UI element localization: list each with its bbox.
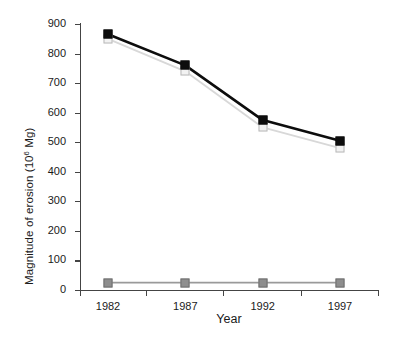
x-axis-tick xyxy=(146,290,147,296)
data-point-marker xyxy=(104,278,113,287)
y-axis-tick-label: 800 xyxy=(26,47,66,59)
y-axis-tick-label: 700 xyxy=(26,76,66,88)
x-axis-tick-label: 1992 xyxy=(250,300,274,312)
x-axis-title: Year xyxy=(80,312,378,326)
data-point-marker xyxy=(104,30,113,39)
x-axis-tick xyxy=(301,290,302,296)
x-axis-tick-label: 1982 xyxy=(96,300,120,312)
data-point-marker xyxy=(258,278,267,287)
x-axis-line xyxy=(80,290,379,291)
data-point-marker xyxy=(336,136,345,145)
x-axis-tick-label: 1997 xyxy=(328,300,352,312)
y-axis-tick-label: 300 xyxy=(26,194,66,206)
y-axis-title-exponent: 6 xyxy=(22,151,31,155)
y-axis-tick-label: 500 xyxy=(26,135,66,147)
y-axis-tick-label: 600 xyxy=(26,106,66,118)
x-axis-tick xyxy=(378,290,379,296)
y-axis-tick-label: 100 xyxy=(26,253,66,265)
data-point-marker xyxy=(181,61,190,70)
y-axis-tick-label: 900 xyxy=(26,17,66,29)
plot-area: 0100200300400500600700800900 19821987199… xyxy=(80,24,378,290)
series-line-0 xyxy=(108,34,340,140)
x-axis-tick xyxy=(223,290,224,296)
y-axis-tick-label: 200 xyxy=(26,224,66,236)
y-axis-tick-label: 400 xyxy=(26,165,66,177)
series-line-paths xyxy=(80,24,378,290)
x-axis-tick xyxy=(80,290,81,296)
data-point-marker xyxy=(336,278,345,287)
erosion-line-chart: Magnitude of erosion (106 Mg) 0100200300… xyxy=(0,0,395,345)
y-axis-tick-label: 0 xyxy=(26,283,66,295)
x-axis-tick-label: 1987 xyxy=(173,300,197,312)
data-point-marker xyxy=(181,278,190,287)
data-point-marker xyxy=(258,116,267,125)
